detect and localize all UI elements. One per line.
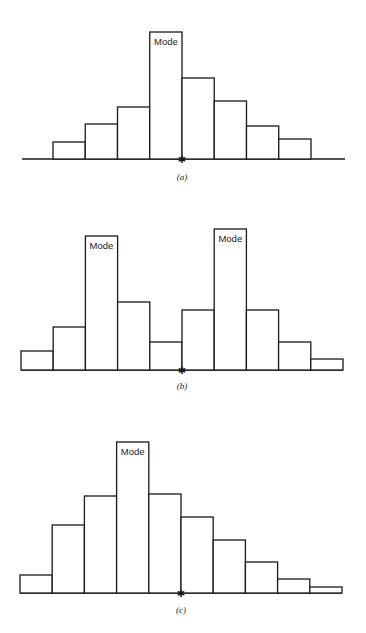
histogram-bar (118, 302, 150, 370)
histogram-bar (214, 101, 246, 159)
histogram-bar (279, 342, 311, 370)
histogram-bar (311, 359, 343, 370)
histogram-bar (246, 310, 278, 370)
histogram-bar (181, 517, 213, 593)
histogram-bar (278, 579, 310, 593)
histogram-bar (247, 126, 279, 159)
histogram-bar (52, 525, 84, 593)
panel-label: (c) (176, 605, 186, 615)
histogram-bar (21, 351, 53, 370)
histogram-bar (117, 442, 149, 593)
histogram-bar (245, 562, 277, 593)
histogram-bar (149, 494, 181, 593)
histogram-bar (279, 139, 311, 159)
histogram-bar (213, 540, 245, 593)
mode-label: Mode (90, 240, 114, 251)
star-marker-icon: ✱ (178, 365, 186, 376)
star-marker-icon: ✱ (178, 154, 186, 165)
histogram-panel-c: Mode✱(c) (20, 442, 342, 615)
histogram-bar (84, 496, 116, 593)
histogram-bar (53, 327, 85, 370)
histogram-bar (310, 587, 342, 593)
histogram-bar (85, 124, 117, 159)
panel-label: (b) (177, 381, 188, 391)
histogram-bar (20, 575, 52, 593)
histogram-panel-a: Mode✱(a) (22, 32, 345, 182)
mode-label: Mode (154, 36, 178, 47)
histogram-panel-b: ModeMode✱(b) (21, 229, 343, 391)
histogram-bar (214, 229, 246, 370)
panel-label: (a) (177, 172, 188, 182)
histogram-bar (118, 107, 150, 159)
histogram-bar (182, 78, 214, 159)
histogram-bar (85, 236, 117, 370)
histogram-bar (182, 310, 214, 370)
histogram-bar (150, 32, 182, 159)
histogram-bar (53, 142, 85, 159)
mode-label: Mode (218, 233, 242, 244)
mode-label: Mode (121, 446, 145, 457)
star-marker-icon: ✱ (177, 588, 185, 599)
histogram-figure: Mode✱(a)ModeMode✱(b)Mode✱(c) (0, 0, 366, 633)
